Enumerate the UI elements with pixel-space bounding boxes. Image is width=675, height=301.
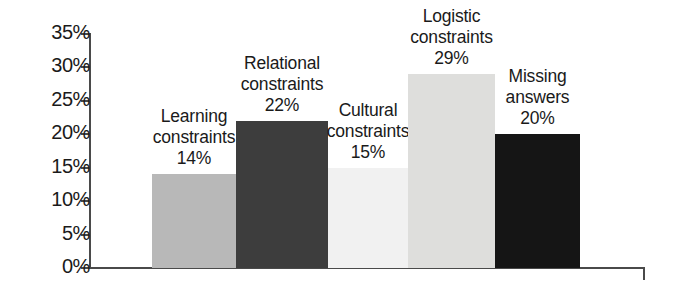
chart-figure: 0%5%10%15%20%25%30%35% Learningconstrain… [0, 0, 675, 301]
bar-label-missing-answers: Missinganswers20% [458, 66, 618, 129]
bar-value-label: 20% [458, 108, 618, 129]
plot-area: Learningconstraints14%Relationalconstrai… [0, 0, 675, 301]
bar-label-line1: Missing [458, 66, 618, 87]
bar-label-line2: constraints [202, 74, 362, 95]
bar-label-line2: answers [458, 87, 618, 108]
bar-label-line2: constraints [372, 27, 532, 48]
bar-learning-constraints [152, 174, 236, 268]
bar-label-line1: Logistic [372, 6, 532, 27]
bar-cultural-constraints [328, 168, 408, 268]
bar-label-logistic-constraints: Logisticconstraints29% [372, 6, 532, 69]
bar-label-line1: Relational [202, 53, 362, 74]
bar-missing-answers [495, 134, 580, 268]
